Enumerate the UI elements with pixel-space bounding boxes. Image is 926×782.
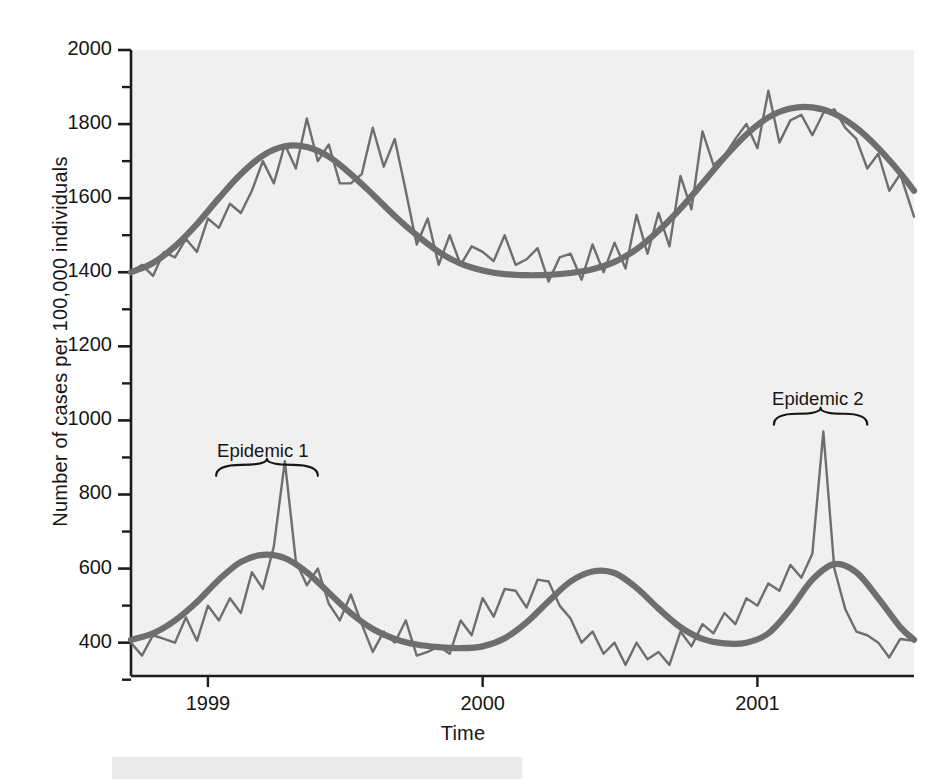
x-axis-label: Time — [0, 722, 926, 745]
y-axis-tick-label: 400 — [42, 630, 112, 653]
y-axis-tick-label: 2000 — [42, 37, 112, 60]
y-axis-tick-label: 1000 — [42, 407, 112, 430]
bottom-gray-band — [112, 757, 522, 779]
annotation-label: Epidemic 2 — [708, 388, 926, 410]
y-axis-tick-label: 1400 — [42, 259, 112, 282]
y-axis-tick-label: 800 — [42, 481, 112, 504]
y-axis-tick-label: 600 — [42, 556, 112, 579]
figure-chart: Number of cases per 100,000 individuals … — [0, 0, 926, 782]
y-axis-tick-label: 1200 — [42, 333, 112, 356]
y-axis-tick-label: 1800 — [42, 111, 112, 134]
x-axis-tick-label: 2001 — [712, 692, 802, 715]
annotation-label: Epidemic 1 — [153, 440, 373, 462]
y-axis-tick-label: 1600 — [42, 185, 112, 208]
x-axis-tick-label: 2000 — [438, 692, 528, 715]
x-axis-tick-label: 1999 — [163, 692, 253, 715]
